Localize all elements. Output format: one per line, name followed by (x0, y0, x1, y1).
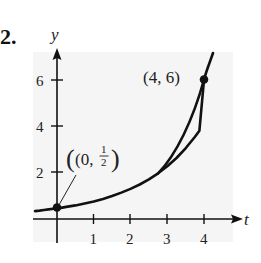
point-4-6 (200, 75, 209, 84)
point-0-half (53, 203, 62, 212)
y-axis-label: y (49, 25, 59, 44)
y-tick-label: 4 (36, 119, 44, 135)
fraction-denominator: 2 (101, 156, 107, 168)
point-label-4-6: (4, 6) (143, 68, 180, 87)
fraction-numerator: 1 (101, 143, 107, 155)
svg-text:(: ( (66, 144, 75, 173)
svg-text:(0,: (0, (75, 150, 93, 169)
svg-text:): ) (111, 144, 120, 173)
x-tick-label: 3 (163, 231, 171, 247)
x-tick-label: 4 (200, 231, 208, 247)
exponential-graph: t y 1 2 3 4 2 4 6 ( (0, 1 2 ) (4, 6) (0, 0, 261, 263)
x-axis-label: t (244, 210, 250, 229)
y-tick-label: 2 (36, 165, 44, 181)
x-tick-label: 2 (126, 231, 134, 247)
y-tick-label: 6 (36, 73, 44, 89)
x-tick-label: 1 (90, 231, 98, 247)
